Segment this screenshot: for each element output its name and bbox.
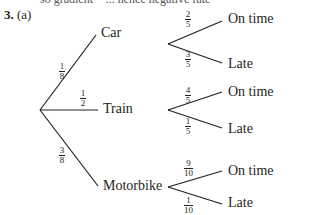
numerator: 1 <box>186 196 191 205</box>
numerator: 3 <box>60 146 65 155</box>
numerator: 4 <box>186 86 191 95</box>
prob-motorbike-late: 110 <box>184 196 193 215</box>
denominator: 5 <box>186 127 191 136</box>
numerator: 9 <box>186 159 191 168</box>
denominator: 8 <box>60 156 65 165</box>
denominator: 5 <box>186 96 191 105</box>
node-motorbike: Motorbike <box>103 178 162 194</box>
prob-car-late: 35 <box>185 50 191 69</box>
train-late: Late <box>228 121 253 137</box>
prob-train-on-time: 45 <box>185 86 191 105</box>
node-car: Car <box>101 25 121 41</box>
car-on-time: On time <box>228 11 274 27</box>
denominator: 2 <box>81 99 86 108</box>
denominator: 5 <box>186 20 191 29</box>
prob-train: 12 <box>80 89 86 108</box>
prob-train-late: 15 <box>185 117 191 136</box>
numerator: 3 <box>186 50 191 59</box>
denominator: 10 <box>184 206 193 215</box>
numerator: 1 <box>186 117 191 126</box>
train-on-time: On time <box>228 84 274 100</box>
motorbike-late: Late <box>228 195 253 211</box>
car-late: Late <box>228 56 253 72</box>
prob-car: 18 <box>59 62 65 81</box>
numerator: 2 <box>186 10 191 19</box>
motorbike-on-time: On time <box>228 163 274 179</box>
denominator: 5 <box>186 60 191 69</box>
prob-car-on-time: 25 <box>185 10 191 29</box>
numerator: 1 <box>60 62 65 71</box>
numerator: 1 <box>81 89 86 98</box>
denominator: 8 <box>60 72 65 81</box>
node-train: Train <box>103 101 133 117</box>
prob-motorbike: 38 <box>59 146 65 165</box>
denominator: 10 <box>184 169 193 178</box>
prob-motorbike-on-time: 910 <box>184 159 193 178</box>
